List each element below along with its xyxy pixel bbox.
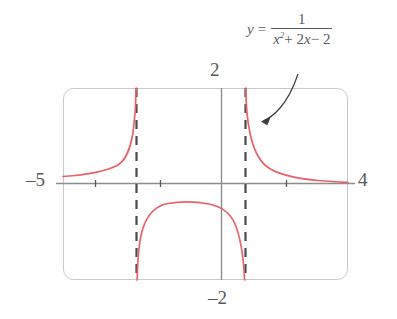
equation-numerator: 1 xyxy=(292,12,312,28)
denominator-rest-2: − 2 xyxy=(311,31,331,47)
equation-fraction: 1 x2+ 2x− 2 xyxy=(271,12,332,47)
denominator-base: x xyxy=(273,31,280,47)
y-axis-min-label: –2 xyxy=(208,288,227,307)
denominator-rest-1: + 2 xyxy=(284,31,304,47)
function-plot xyxy=(0,0,397,319)
y-axis-max-label: 2 xyxy=(210,60,220,79)
x-axis-max-label: 4 xyxy=(358,170,368,189)
graph-figure: –5 4 2 –2 y = 1 x2+ 2x− 2 xyxy=(0,0,397,319)
x-axis-min-label: –5 xyxy=(26,170,45,189)
equation-denominator: x2+ 2x− 2 xyxy=(271,29,332,47)
equation-lhs: y xyxy=(247,22,254,37)
equation-equals-sign: = xyxy=(258,22,266,37)
equation-callout: y = 1 x2+ 2x− 2 xyxy=(247,12,332,47)
denominator-var: x xyxy=(304,31,311,47)
